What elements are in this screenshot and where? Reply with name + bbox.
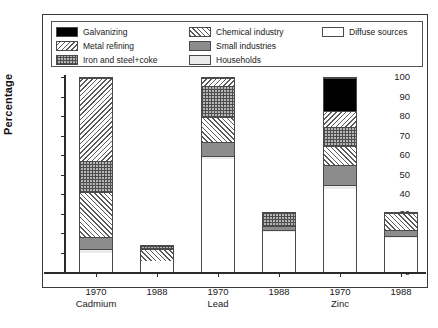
legend-column-3: Diffuse sources	[322, 25, 407, 39]
x-axis-line	[44, 272, 426, 274]
x-axis-year-label: 1970	[188, 286, 248, 297]
bar-cadmium-1970[interactable]	[79, 77, 113, 272]
y-axis-title: Percentage	[2, 74, 14, 135]
legend-column-1: Galvanizing Metal refining Iron and stee…	[56, 25, 157, 67]
legend-item-iron-steel-coke: Iron and steel+coke	[56, 53, 157, 66]
legend-label-iron-steel-coke: Iron and steel+coke	[83, 55, 157, 65]
legend-swatch-iron-steel-coke-icon	[56, 55, 78, 65]
legend-label-galvanizing: Galvanizing	[83, 27, 127, 37]
y-axis-tick	[61, 272, 66, 273]
bar-segment-iron_steel_coke[interactable]	[80, 161, 112, 192]
bar-segment-diffuse[interactable]	[385, 238, 417, 272]
legend-label-metal-refining: Metal refining	[83, 41, 134, 51]
bar-segment-iron_steel_coke[interactable]	[202, 86, 234, 117]
legend-swatch-galvanizing-icon	[56, 27, 78, 37]
bar-lead-1988[interactable]	[262, 212, 296, 272]
y-axis-tick	[61, 253, 66, 254]
bar-segment-metal_refining[interactable]	[324, 111, 356, 127]
legend-swatch-households-icon	[189, 55, 211, 65]
y-axis-tick	[61, 233, 66, 234]
bar-segment-metal_refining[interactable]	[80, 78, 112, 161]
bar-segment-iron_steel_coke[interactable]	[324, 127, 356, 146]
y-axis-tick-label: 70	[399, 131, 410, 141]
y-axis-tick-label: 80	[399, 111, 410, 121]
legend-item-galvanizing: Galvanizing	[56, 25, 157, 38]
y-axis-tick-label: 90	[399, 92, 410, 102]
bar-segment-diffuse[interactable]	[80, 253, 112, 272]
bar-segment-chemical[interactable]	[385, 213, 417, 230]
legend-label-diffuse-sources: Diffuse sources	[349, 27, 407, 37]
y-axis-tick	[61, 116, 66, 117]
y-axis-tick	[61, 97, 66, 98]
y-axis-tick	[61, 214, 66, 215]
bar-segment-metal_refining[interactable]	[202, 78, 234, 86]
bar-zinc-1970[interactable]	[323, 77, 357, 272]
x-axis-year-label: 1988	[249, 286, 309, 297]
bar-segment-diffuse[interactable]	[263, 232, 295, 272]
x-axis-group-label-zinc: Zinc	[300, 298, 380, 309]
x-axis-tick	[340, 272, 341, 277]
bar-segment-small_industries[interactable]	[80, 237, 112, 249]
bar-cadmium-1988[interactable]	[140, 245, 174, 272]
x-axis-tick	[157, 272, 158, 277]
legend-swatch-metal-refining-icon	[56, 41, 78, 51]
legend-item-metal-refining: Metal refining	[56, 39, 157, 52]
y-axis-tick	[61, 175, 66, 176]
y-axis-tick-label: 100	[394, 72, 410, 82]
x-axis-group-label-cadmium: Cadmium	[56, 298, 136, 309]
y-axis-tick	[61, 136, 66, 137]
y-axis-tick	[61, 77, 66, 78]
legend-swatch-small-industries-icon	[189, 41, 211, 51]
legend-item-chemical-industry: Chemical industry	[189, 25, 284, 38]
y-axis-tick-label: 60	[399, 150, 410, 160]
legend-column-2: Chemical industry Small industries House…	[189, 25, 284, 67]
bar-segment-chemical[interactable]	[324, 146, 356, 165]
figure-stacked-bar-chart: Galvanizing Metal refining Iron and stee…	[0, 0, 438, 328]
legend-item-small-industries: Small industries	[189, 39, 284, 52]
bar-segment-chemical[interactable]	[141, 249, 173, 260]
bar-segment-chemical[interactable]	[80, 192, 112, 237]
bar-segment-chemical[interactable]	[202, 117, 234, 142]
y-axis-tick	[61, 155, 66, 156]
legend-label-households: Households	[216, 55, 261, 65]
x-axis-tick	[401, 272, 402, 277]
chart-legend: Galvanizing Metal refining Iron and stee…	[51, 21, 423, 67]
x-axis-year-label: 1988	[127, 286, 187, 297]
bar-segment-small_industries[interactable]	[324, 165, 356, 184]
bar-zinc-1988[interactable]	[384, 212, 418, 272]
legend-label-chemical-industry: Chemical industry	[216, 27, 284, 37]
legend-item-households: Households	[189, 53, 284, 66]
bar-segment-small_industries[interactable]	[202, 142, 234, 156]
y-axis-tick-label: 50	[399, 170, 410, 180]
bar-segment-galvanizing[interactable]	[324, 78, 356, 111]
y-axis-tick	[61, 194, 66, 195]
bar-segment-diffuse[interactable]	[141, 261, 173, 272]
x-axis-year-label: 1970	[310, 286, 370, 297]
plot-area: 0102030405060708090100	[66, 77, 418, 272]
x-axis-tick	[279, 272, 280, 277]
x-axis-group-label-lead: Lead	[178, 298, 258, 309]
bar-segment-diffuse[interactable]	[324, 189, 356, 272]
bar-lead-1970[interactable]	[201, 77, 235, 272]
x-axis-tick	[96, 272, 97, 277]
x-axis-year-label: 1970	[66, 286, 126, 297]
x-axis-tick	[218, 272, 219, 277]
legend-swatch-diffuse-sources-icon	[322, 27, 344, 37]
bar-segment-iron_steel_coke[interactable]	[263, 213, 295, 226]
legend-swatch-chemical-industry-icon	[189, 27, 211, 37]
legend-item-diffuse-sources: Diffuse sources	[322, 25, 407, 38]
legend-label-small-industries: Small industries	[216, 41, 276, 51]
x-axis-year-label: 1988	[371, 286, 431, 297]
y-axis-tick-label: 40	[399, 189, 410, 199]
bar-segment-diffuse[interactable]	[202, 159, 234, 272]
